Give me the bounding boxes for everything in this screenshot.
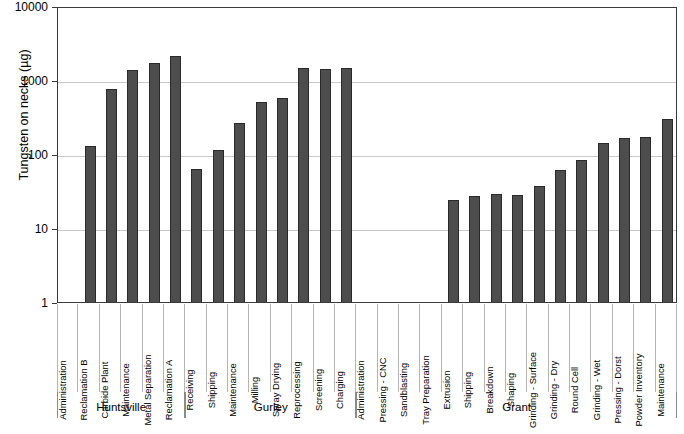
category-tick-9: Maintenance [228, 304, 249, 392]
category-tick-22: Shaping [506, 304, 527, 392]
bar [213, 150, 224, 302]
group-label: Grant [357, 401, 676, 413]
category-tick-6: Reclamation A [164, 304, 185, 392]
bar [170, 56, 181, 302]
bar [576, 160, 587, 302]
category-tick-29: Maintenance [656, 304, 677, 392]
group-huntsville: Huntsville [57, 392, 185, 418]
bar [320, 69, 331, 302]
category-tick-2: Reclamation B [78, 304, 99, 392]
group-label: Huntsville [58, 401, 184, 413]
category-tick-26: Grinding - Wet [591, 304, 612, 392]
bar [534, 186, 545, 302]
category-tick-5: Metal Separation [143, 304, 164, 392]
bar [491, 194, 502, 302]
bar [106, 89, 117, 302]
category-tick-8: Shipping [207, 304, 228, 392]
bar [640, 137, 651, 302]
y-tick-label: 1 [0, 298, 48, 308]
plot-area [57, 7, 677, 303]
category-tick-13: Screening [314, 304, 335, 392]
bar [256, 102, 267, 302]
bar [234, 123, 245, 302]
bar [512, 195, 523, 302]
category-tick-11: Spray Drying [271, 304, 292, 392]
bar [341, 68, 352, 302]
category-tick-1: Administration [57, 304, 78, 392]
category-tick-21: Breakdown [485, 304, 506, 392]
category-tick-23: Grinding - Surface [527, 304, 548, 392]
y-tick-label: 1000 [0, 76, 48, 86]
category-axis: AdministrationReclamation BCarbide Plant… [57, 304, 677, 392]
bar [555, 170, 566, 302]
bar-chart: Tungsten on necks (µg) 100001000100101 A… [0, 0, 684, 434]
category-tick-28: Powder Inventory [634, 304, 655, 392]
bar [127, 70, 138, 302]
category-tick-19: Extrusion [442, 304, 463, 392]
category-tick-20: Shipping [463, 304, 484, 392]
category-tick-16: Pressing - CNC [378, 304, 399, 392]
category-tick-25: Round Cell [570, 304, 591, 392]
y-tick-label: 10 [0, 224, 48, 234]
category-tick-4: Maintenance [121, 304, 142, 392]
bar [469, 196, 480, 302]
group-axis: HuntsvilleGurleyGrant [57, 392, 677, 426]
category-tick-27: Pressing - Dorst [613, 304, 634, 392]
category-tick-12: Reprocessing [292, 304, 313, 392]
bar [598, 143, 609, 302]
group-label: Gurley [186, 401, 355, 413]
category-tick-15: Administration [356, 304, 377, 392]
bar [298, 68, 309, 302]
category-tick-24: Grinding - Dry [549, 304, 570, 392]
bar [191, 169, 202, 302]
y-axis-title: Tungsten on necks (µg) [17, 5, 31, 225]
y-tick-label: 100 [0, 150, 48, 160]
category-tick-3: Carbide Plant [100, 304, 121, 392]
bar [149, 63, 160, 302]
category-tick-18: Tray Preparation [420, 304, 441, 392]
category-tick-14: Charging [335, 304, 356, 392]
group-grant: Grant [356, 392, 677, 418]
category-tick-17: Sandblasting [399, 304, 420, 392]
y-tick-label: 10000 [0, 2, 48, 12]
bar [662, 119, 673, 302]
bar [85, 146, 96, 302]
bar [448, 200, 459, 302]
category-tick-10: Milling [249, 304, 270, 392]
bar [619, 138, 630, 302]
bar [277, 98, 288, 302]
group-gurley: Gurley [185, 392, 356, 418]
category-tick-7: Receiving [185, 304, 206, 392]
